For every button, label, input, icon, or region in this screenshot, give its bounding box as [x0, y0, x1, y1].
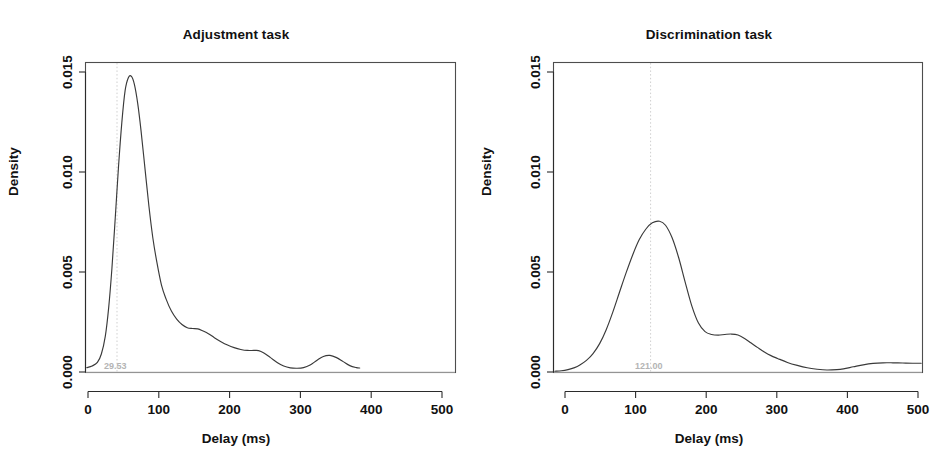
x-axis-discrimination: 0 100 200 300 400 500 [561, 392, 929, 418]
x-tick-label-100: 100 [148, 402, 171, 417]
y-axis-adjustment: 0.015 0.010 0.005 0.000 [60, 55, 86, 389]
plot-area-discrimination: 121.00 0.015 0.010 0.005 0.000 [473, 0, 945, 464]
density-curve-adjustment [87, 76, 360, 369]
x-tick-label-300: 300 [766, 402, 789, 417]
y-axis-discrimination: 0.015 0.010 0.005 0.000 [528, 55, 554, 389]
y-tick-label-0005: 0.005 [60, 255, 75, 289]
x-tick-label-200: 200 [218, 402, 241, 417]
plot-frame-adjustment [86, 63, 456, 373]
x-tick-label-0: 0 [561, 402, 569, 417]
y-tick-label-0000: 0.000 [60, 355, 75, 389]
x-axis-title: Delay (ms) [0, 431, 472, 446]
y-tick-label-0015: 0.015 [528, 55, 543, 89]
mode-marker-discrimination: 121.00 [635, 63, 663, 372]
y-tick-label-0010: 0.010 [60, 155, 75, 189]
x-axis-title: Delay (ms) [473, 431, 945, 446]
y-axis-title: Density [6, 147, 21, 196]
x-tick-label-500: 500 [907, 402, 930, 417]
x-tick-label-100: 100 [624, 402, 647, 417]
panel-discrimination-task: Discrimination task 121.00 0.015 0.010 0… [473, 0, 945, 464]
y-tick-label-0005: 0.005 [528, 255, 543, 289]
x-tick-label-400: 400 [360, 402, 383, 417]
density-curve-discrimination [555, 221, 921, 371]
x-tick-label-200: 200 [695, 402, 718, 417]
panel-adjustment-task: Adjustment task 29.53 0.015 0.010 0.005 [0, 0, 472, 464]
y-tick-label-0000: 0.000 [528, 355, 543, 389]
x-tick-label-500: 500 [431, 402, 454, 417]
x-axis-adjustment: 0 100 200 300 400 500 [84, 392, 453, 418]
mode-label: 29.53 [104, 361, 127, 371]
y-axis-title: Density [479, 147, 494, 196]
mode-label: 121.00 [635, 361, 663, 371]
x-tick-label-400: 400 [836, 402, 859, 417]
plot-area-adjustment: 29.53 0.015 0.010 0.005 0.000 [0, 0, 472, 464]
y-tick-label-0010: 0.010 [528, 155, 543, 189]
x-tick-label-300: 300 [289, 402, 312, 417]
y-tick-label-0015: 0.015 [60, 55, 75, 89]
plot-frame-discrimination [554, 63, 923, 373]
x-tick-label-0: 0 [84, 402, 92, 417]
density-figure: Adjustment task 29.53 0.015 0.010 0.005 [0, 0, 945, 464]
